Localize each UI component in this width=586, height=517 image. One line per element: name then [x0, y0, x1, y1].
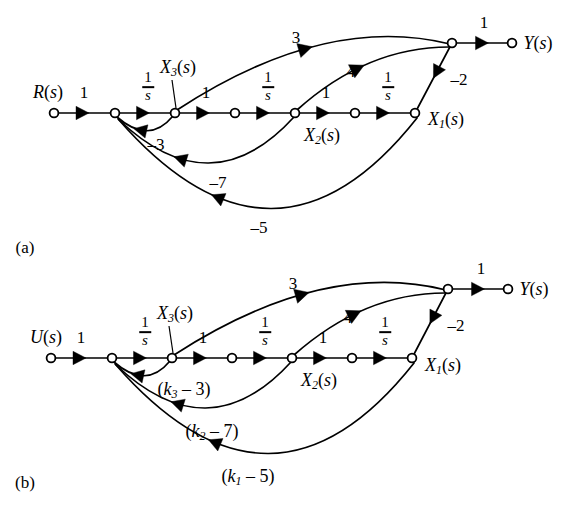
panel-b-gain-integrator-3-denominator: s	[139, 334, 151, 349]
panel-a-node-x1[interactable]	[411, 109, 420, 118]
panel-b-gain-integrator-1: 1s	[379, 315, 391, 349]
panel-a-edge-feedback-x2	[118, 117, 294, 163]
panel-a-edge-input-to-summing-junction-arrowhead	[76, 106, 89, 120]
panel-b-x1-label: X1(s)	[425, 356, 461, 377]
panel-a-gain-integrator-1-denominator: s	[382, 89, 394, 104]
panel-b-edge-x2-to-mid-2-arrowhead	[314, 351, 327, 365]
panel-a-node-output-junction[interactable]	[448, 39, 457, 48]
panel-b-node-mid-1[interactable]	[228, 354, 237, 363]
panel-b-node-mid-2[interactable]	[348, 354, 357, 363]
panel-a-x3-label: X3(s)	[160, 58, 196, 79]
panel-b-edge-forward-gain-3	[174, 282, 446, 355]
panel-a-gain-feedback-minus2: –2	[451, 71, 468, 88]
panel-a-edge-output-junction-to-output-arrowhead	[476, 36, 489, 50]
panel-a-gain-feedback-minus7: –7	[210, 174, 227, 191]
panel-b-gain-x2-to-mid2: 1	[319, 329, 328, 346]
panel-b-input-label: U(s)	[30, 328, 62, 346]
panel-b-node-x2[interactable]	[288, 354, 297, 363]
panel-a-gain-integrator-3: 1s	[142, 70, 154, 104]
panel-b-edge-feedback-x1	[116, 363, 414, 454]
panel-a-caption: (a)	[16, 239, 35, 256]
panel-b-edge-x3-to-mid-1-arrowhead	[194, 351, 207, 365]
panel-a-gain-integrator-3-numerator: 1	[142, 70, 154, 85]
panel-b-gain-feedback-k1: (k1 – 5)	[222, 467, 275, 488]
panel-b-x2-label: X2(s)	[301, 371, 337, 392]
graph-drawing-layer	[0, 0, 586, 517]
panel-b-edge-feedback-x3-arrowhead	[131, 370, 145, 383]
panel-b-x3-label-leader	[169, 326, 173, 353]
panel-b-gain-input: 1	[77, 329, 86, 346]
panel-b-gain-x3-to-mid1: 1	[199, 329, 208, 346]
panel-a-gain-integrator-2-numerator: 1	[262, 70, 274, 85]
panel-a-edge-x3-to-mid-1-arrowhead	[197, 106, 210, 120]
panel-b-node-x1[interactable]	[408, 354, 417, 363]
panel-a-edge-mid-1-to-x2-arrowhead	[257, 106, 270, 120]
panel-a-gain-integrator-3-denominator: s	[142, 89, 154, 104]
panel-a-gain-x2-to-mid2: 1	[322, 84, 331, 101]
panel-a-edge-summing-junction-to-x3-arrowhead	[137, 106, 150, 120]
panel-b-edge-mid-2-to-x1-arrowhead	[374, 351, 387, 365]
panel-b-gain-feedback-k2: (k2 – 7)	[186, 422, 239, 443]
panel-b-gain-integrator-3: 1s	[139, 315, 151, 349]
panel-a-node-x3[interactable]	[171, 109, 180, 118]
panel-a-gain-forward-3: 3	[292, 29, 301, 46]
panel-a-gain-output: 1	[480, 14, 489, 31]
panel-b-gain-integrator-1-denominator: s	[379, 334, 391, 349]
panel-a-gain-x3-to-mid1: 1	[202, 84, 211, 101]
panel-b-edge-summing-junction-to-x3-arrowhead	[134, 351, 147, 365]
panel-a-edge-minus2-arrowhead	[433, 63, 445, 78]
panel-a-edge-forward-gain-3	[177, 36, 450, 110]
panel-b-edge-feedback-x3	[114, 361, 170, 376]
panel-a-node-mid-2[interactable]	[351, 109, 360, 118]
panel-a-node-x2[interactable]	[291, 109, 300, 118]
panel-b-edge-minus2-arrowhead	[430, 309, 442, 324]
panel-b-gain-forward-4: 4	[344, 309, 353, 326]
panel-b-gain-output: 1	[477, 260, 486, 277]
panel-a-edge-feedback-x1-arrowhead	[211, 194, 226, 206]
panel-a-node-summing-junction[interactable]	[111, 109, 120, 118]
panel-b-node-summing-junction[interactable]	[108, 354, 117, 363]
panel-b-gain-feedback-minus2: –2	[448, 317, 465, 334]
panel-b-edge-forward-gain-4	[294, 293, 445, 355]
panel-a-gain-forward-4: 4	[347, 63, 356, 80]
panel-a-node-output[interactable]	[508, 39, 517, 48]
panel-a-edge-feedback-x1	[119, 118, 417, 209]
panel-a-gain-feedback-minus3: –3	[148, 136, 165, 153]
panel-a-node-mid-1[interactable]	[231, 109, 240, 118]
panel-a-input-label: R(s)	[33, 83, 63, 101]
panel-b-node-output[interactable]	[504, 285, 513, 294]
panel-b-gain-integrator-2: 1s	[259, 315, 271, 349]
panel-b-gain-integrator-3-numerator: 1	[139, 315, 151, 330]
panel-a-edge-forward-gain-4	[297, 47, 449, 110]
panel-b-gain-integrator-2-numerator: 1	[259, 315, 271, 330]
panel-b-gain-integrator-2-denominator: s	[259, 334, 271, 349]
panel-b-caption: (b)	[15, 474, 35, 491]
panel-a-gain-integrator-2-denominator: s	[262, 89, 274, 104]
panel-b-edge-input-to-summing-junction-arrowhead	[73, 351, 86, 365]
panel-a-gain-input: 1	[80, 84, 89, 101]
panel-a-edge-feedback-x3-arrowhead	[134, 125, 148, 138]
panel-b-gain-feedback-k3: (k3 – 3)	[158, 380, 211, 401]
panel-a-gain-integrator-1: 1s	[382, 70, 394, 104]
panel-a-edge-x1-to-output-junction	[415, 43, 452, 113]
panel-a-x3-label-leader	[172, 80, 176, 108]
panel-b-x3-label: X3(s)	[157, 304, 193, 325]
panel-a-edge-x2-to-mid-2-arrowhead	[317, 106, 330, 120]
panel-a-gain-integrator-2: 1s	[262, 70, 274, 104]
panel-b-edge-mid-1-to-x2-arrowhead	[254, 351, 267, 365]
panel-b-node-x3[interactable]	[168, 354, 177, 363]
panel-a-x2-label: X2(s)	[304, 126, 340, 147]
panel-b-node-output-junction[interactable]	[444, 285, 453, 294]
panel-a-gain-feedback-minus5: –5	[251, 219, 268, 236]
panel-b-output-label: Y(s)	[519, 280, 548, 298]
panel-a-x1-label: X1(s)	[428, 110, 464, 131]
signal-flow-graph-figure: R(s)Y(s)X3(s)X2(s)X1(s)11s11s11s134–2–3–…	[0, 0, 586, 517]
panel-a-gain-integrator-1-numerator: 1	[382, 70, 394, 85]
panel-b-node-input[interactable]	[47, 354, 56, 363]
panel-b-gain-forward-3: 3	[289, 275, 298, 292]
panel-b-edge-output-junction-to-output-arrowhead	[472, 282, 485, 296]
panel-a-node-input[interactable]	[50, 109, 59, 118]
panel-b-edge-x1-to-output-junction	[412, 289, 448, 358]
panel-b-gain-integrator-1-numerator: 1	[379, 315, 391, 330]
panel-a-edge-feedback-x2-arrowhead	[174, 154, 188, 167]
